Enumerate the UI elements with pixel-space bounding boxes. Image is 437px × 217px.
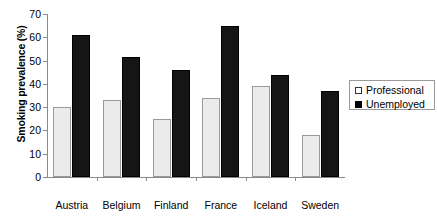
bar-austria-unemployed [72,35,90,177]
x-tick-label-sweden: Sweden [301,200,339,211]
bar-group [53,14,90,177]
legend-swatch-professional-icon [355,87,362,94]
y-tick-label: 0 [35,172,41,183]
bar-chart: Smoking prevalence (%) 010203040506070 A… [0,0,437,217]
x-tick-mark [146,177,147,181]
y-axis-line [47,14,48,177]
x-tick-label-france: France [204,200,237,211]
y-tick-mark [43,84,47,85]
y-tick-mark [43,177,47,178]
bar-sweden-professional [302,135,320,177]
y-tick-mark [43,37,47,38]
legend-item-professional[interactable]: Professional [355,84,434,96]
bar-iceland-professional [252,86,270,177]
x-tick-mark [196,177,197,181]
y-tick-label: 50 [29,55,41,66]
y-axis-title: Smoking prevalence (%) [15,9,27,159]
bar-group [202,14,239,177]
chart-legend: ProfessionalUnemployed [349,80,435,110]
y-tick-label: 70 [29,9,41,20]
x-tick-mark [97,177,98,181]
bar-group [103,14,140,177]
y-tick-label: 10 [29,148,41,159]
bar-group [252,14,289,177]
bar-france-professional [202,98,220,177]
plot-area: 010203040506070 AustriaBelgiumFinlandFra… [47,14,345,177]
y-tick-label: 60 [29,32,41,43]
y-tick-label: 30 [29,102,41,113]
legend-label: Unemployed [366,99,425,110]
y-tick-label: 20 [29,125,41,136]
y-tick-mark [43,107,47,108]
bar-group [153,14,190,177]
bar-finland-professional [153,119,171,177]
y-tick-mark [43,130,47,131]
x-tick-mark [295,177,296,181]
bar-austria-professional [53,107,71,177]
legend-swatch-unemployed-icon [355,101,362,108]
x-tick-label-belgium: Belgium [103,200,141,211]
bar-france-unemployed [221,26,239,177]
bar-belgium-professional [103,100,121,177]
y-tick-mark [43,154,47,155]
x-tick-label-finland: Finland [154,200,188,211]
bar-finland-unemployed [172,70,190,177]
x-tick-label-austria: Austria [55,200,88,211]
bar-sweden-unemployed [321,91,339,177]
y-tick-label: 40 [29,79,41,90]
bar-belgium-unemployed [122,57,140,177]
bar-iceland-unemployed [271,75,289,177]
bar-group [302,14,339,177]
legend-label: Professional [366,85,424,96]
y-tick-mark [43,14,47,15]
legend-item-unemployed[interactable]: Unemployed [355,98,434,110]
y-tick-mark [43,61,47,62]
x-tick-mark [246,177,247,181]
x-tick-label-iceland: Iceland [254,200,288,211]
